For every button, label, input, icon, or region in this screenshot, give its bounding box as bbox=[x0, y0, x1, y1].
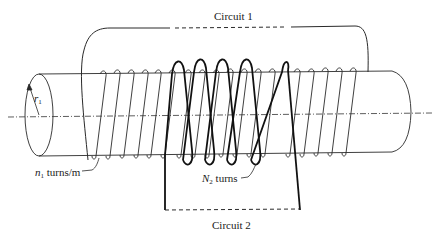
cylinder-axis bbox=[8, 113, 432, 117]
radius-label: r1 bbox=[34, 92, 42, 108]
radius-subscript: 1 bbox=[38, 98, 42, 106]
n2-text: turns bbox=[213, 172, 238, 184]
solenoid-diagram: Circuit 1 Circuit 2 r1 n1 turns/m N2 tur… bbox=[0, 0, 437, 233]
primary-winding bbox=[92, 68, 356, 159]
n2-label: N2 turns bbox=[202, 172, 238, 188]
circuit2-dashed-link bbox=[165, 209, 300, 210]
n1-leader bbox=[82, 158, 99, 171]
n2-leader bbox=[241, 164, 256, 178]
n1-text: turns/m bbox=[44, 166, 80, 178]
circuit1-label: Circuit 1 bbox=[214, 10, 253, 22]
diagram-drawing bbox=[0, 0, 437, 233]
circuit2-label: Circuit 2 bbox=[212, 219, 251, 231]
n1-label: n1 turns/m bbox=[35, 166, 80, 182]
